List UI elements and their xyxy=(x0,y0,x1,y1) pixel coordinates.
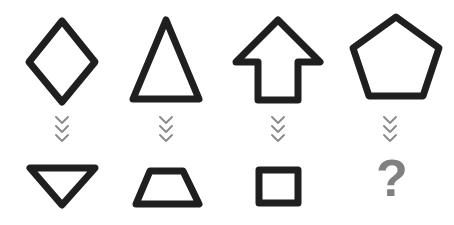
chevron-down-icon xyxy=(56,135,68,141)
chevron-down-icon xyxy=(384,126,396,132)
chevron-down-icon xyxy=(272,135,284,141)
triangle-up-icon xyxy=(133,20,199,99)
square-icon xyxy=(259,170,298,203)
bottom-shape-row: ? xyxy=(30,149,408,207)
top-shape-row xyxy=(29,17,439,102)
top-shape-diamond[interactable] xyxy=(29,21,95,102)
chevron-down-icon xyxy=(160,117,172,123)
top-shape-pentagon[interactable] xyxy=(353,17,439,96)
chevron-down-icon xyxy=(384,135,396,141)
chevrons-column-2 xyxy=(160,117,172,141)
up-arrow-icon xyxy=(236,20,320,100)
bottom-shape-answer-slot[interactable]: ? xyxy=(376,149,408,207)
diamond-icon xyxy=(29,21,95,102)
question-mark-placeholder: ? xyxy=(376,149,408,207)
chevron-down-icon xyxy=(160,135,172,141)
bottom-shape-inverted-triangle[interactable] xyxy=(30,168,95,205)
triangle-down-icon xyxy=(30,168,95,205)
chevron-down-icon xyxy=(272,117,284,123)
chevrons-column-3 xyxy=(272,117,284,141)
chevron-down-icon xyxy=(56,126,68,132)
puzzle-diagram: ? xyxy=(0,0,454,225)
chevron-down-icon xyxy=(384,117,396,123)
bottom-shape-trapezoid[interactable] xyxy=(136,171,199,204)
chevrons-column-4 xyxy=(384,117,396,141)
downward-chevrons-row xyxy=(56,117,396,141)
chevrons-column-1 xyxy=(56,117,68,141)
top-shape-triangle-up[interactable] xyxy=(133,20,199,99)
chevron-down-icon xyxy=(56,117,68,123)
trapezoid-icon xyxy=(136,171,199,204)
pentagon-icon xyxy=(353,17,439,96)
bottom-shape-square[interactable] xyxy=(259,170,298,203)
chevron-down-icon xyxy=(160,126,172,132)
shape-analogy-puzzle: ? xyxy=(0,0,454,225)
top-shape-up-arrow[interactable] xyxy=(236,20,320,100)
chevron-down-icon xyxy=(272,126,284,132)
